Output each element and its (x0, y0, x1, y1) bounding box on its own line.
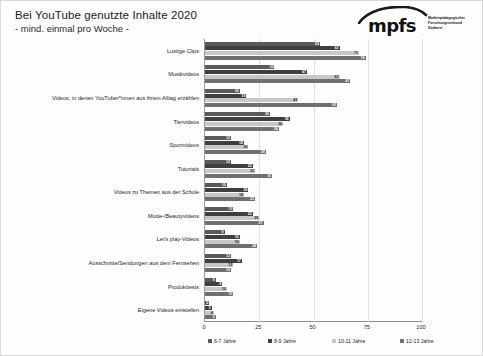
bar-value-label: 5 (213, 315, 215, 319)
bar-value-label: 34 (274, 127, 278, 131)
bar-value-label: 31 (267, 174, 271, 178)
bar-2[interactable]: 18 (205, 193, 244, 197)
bar-2[interactable]: 71 (205, 51, 359, 55)
bar-value-label: 67 (345, 79, 349, 83)
mpfs-logo-subtitle: Medienpädagogischer Forschungsverbund Sü… (428, 16, 474, 31)
bar-2[interactable]: 62 (205, 75, 340, 79)
bar-0[interactable]: 12 (205, 254, 231, 258)
bar-1[interactable]: 3 (205, 306, 212, 310)
bar-0[interactable]: 12 (205, 160, 231, 164)
category-label: Musikvideos (168, 71, 199, 77)
legend-item-6-7-jahre[interactable]: 6-7 Jahre (208, 338, 236, 344)
legend-item-10-11-jahre[interactable]: 10-11 Jahre (332, 338, 365, 344)
bar-3[interactable]: 61 (205, 103, 337, 107)
bar-group: Musikvideos32476267 (205, 63, 422, 87)
x-tick-75: 75 (364, 324, 370, 330)
bar-row: 47 (205, 70, 422, 74)
mpfs-logo: mpfs Medienpädagogischer Forschungsverbu… (356, 5, 474, 39)
bar-3[interactable]: 31 (205, 174, 272, 178)
bar-0[interactable]: 13 (205, 207, 233, 211)
bar-3[interactable]: 74 (205, 56, 366, 60)
bar-0[interactable]: 12 (205, 136, 231, 140)
bar-value-label: 32 (269, 65, 273, 69)
bar-3[interactable]: 28 (205, 150, 266, 154)
bar-0[interactable]: 16 (205, 89, 240, 93)
bar-value-label: 10 (222, 183, 226, 187)
bar-3[interactable]: 23 (205, 197, 255, 201)
bar-1[interactable]: 62 (205, 46, 340, 50)
bar-1[interactable]: 47 (205, 70, 307, 74)
bar-3[interactable]: 5 (205, 315, 216, 319)
bar-row: 62 (205, 46, 422, 50)
bar-3[interactable]: 12 (205, 268, 231, 272)
bar-value-label: 18 (239, 193, 243, 197)
chart-legend: 6-7 Jahre8-9 Jahre10-11 Jahre12-13 Jahre (204, 338, 436, 350)
bar-0[interactable]: 9 (205, 230, 225, 234)
bar-group: Sportvideos12182028 (205, 133, 422, 157)
bar-3[interactable]: 24 (205, 244, 257, 248)
bar-row: 25 (205, 216, 422, 220)
bar-1[interactable]: 8 (205, 282, 222, 286)
bar-1[interactable]: 16 (205, 235, 240, 239)
bar-0[interactable]: 5 (205, 278, 216, 282)
bar-value-label: 28 (261, 150, 265, 154)
category-label: Eigene Videos einstellen (138, 307, 199, 313)
bar-0[interactable]: 32 (205, 65, 274, 69)
bar-row: 16 (205, 240, 422, 244)
bar-0[interactable]: 10 (205, 183, 227, 187)
bar-row: 18 (205, 141, 422, 145)
bar-value-label: 16 (235, 235, 239, 239)
legend-item-8-9-jahre[interactable]: 8-9 Jahre (268, 338, 296, 344)
category-label: Sportvideos (169, 142, 199, 148)
bar-value-label: 36 (278, 122, 282, 126)
bar-1[interactable]: 20 (205, 188, 248, 192)
bar-2[interactable]: 4 (205, 311, 214, 315)
bar-value-label: 12 (226, 268, 230, 272)
bar-value-label: 8 (219, 282, 221, 286)
bar-2[interactable]: 20 (205, 145, 248, 149)
bar-value-label: 22 (248, 164, 252, 168)
bar-2[interactable]: 25 (205, 216, 259, 220)
bar-1[interactable]: 17 (205, 259, 242, 263)
bar-group: Videos zu Themen aus der Schule10201823 (205, 181, 422, 205)
legend-swatch-icon (208, 339, 212, 343)
x-tick-100: 100 (416, 324, 425, 330)
bar-3[interactable]: 13 (205, 292, 233, 296)
bar-value-label: 18 (239, 141, 243, 145)
bar-2[interactable]: 36 (205, 122, 283, 126)
bar-1[interactable]: 39 (205, 117, 290, 121)
category-label: Let's play-Videos (157, 236, 199, 242)
bar-1[interactable]: 19 (205, 94, 246, 98)
bar-2[interactable]: 43 (205, 98, 298, 102)
bar-2[interactable]: 13 (205, 263, 233, 267)
bar-3[interactable]: 27 (205, 221, 264, 225)
bar-3[interactable]: 67 (205, 79, 350, 83)
bar-value-label: 3 (209, 306, 211, 310)
bar-3[interactable]: 34 (205, 127, 279, 131)
legend-label: 6-7 Jahre (214, 338, 236, 344)
bar-1[interactable]: 22 (205, 164, 253, 168)
bar-row: 28 (205, 150, 422, 154)
bar-0[interactable]: 30 (205, 112, 270, 116)
bar-1[interactable]: 18 (205, 141, 244, 145)
bar-value-label: 2 (206, 301, 208, 305)
bar-row: 10 (205, 183, 422, 187)
legend-item-12-13-jahre[interactable]: 12-13 Jahre (400, 338, 434, 344)
bar-row: 12 (205, 160, 422, 164)
bar-row: 27 (205, 221, 422, 225)
bar-value-label: 62 (335, 46, 339, 50)
bar-2[interactable]: 10 (205, 287, 227, 291)
bar-1[interactable]: 22 (205, 212, 253, 216)
bar-value-label: 9 (222, 230, 224, 234)
bar-row: 61 (205, 103, 422, 107)
bar-value-label: 16 (235, 240, 239, 244)
bar-2[interactable]: 16 (205, 240, 240, 244)
bar-2[interactable]: 23 (205, 169, 255, 173)
x-tick-0: 0 (202, 324, 205, 330)
bar-row: 12 (205, 254, 422, 258)
bar-row: 20 (205, 188, 422, 192)
bar-row: 23 (205, 197, 422, 201)
bar-0[interactable]: 53 (205, 42, 320, 46)
bar-0[interactable]: 2 (205, 301, 209, 305)
legend-label: 10-11 Jahre (338, 338, 365, 344)
